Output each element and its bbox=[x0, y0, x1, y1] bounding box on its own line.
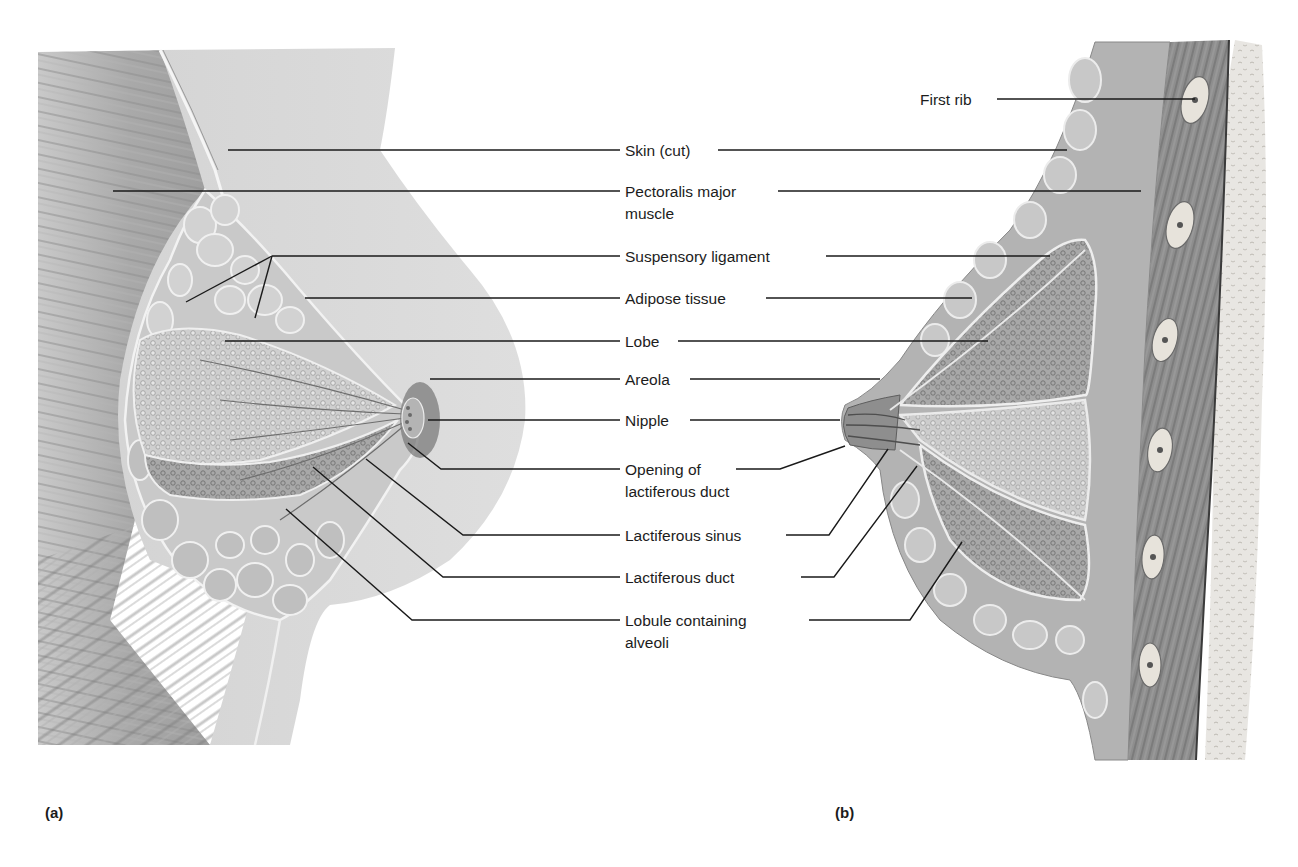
anatomy-illustration bbox=[0, 0, 1298, 867]
label-lobule-containing-alveoli: Lobule containing bbox=[625, 611, 747, 630]
label-areola: Areola bbox=[625, 370, 670, 389]
label-lobe: Lobe bbox=[625, 332, 659, 351]
panel-label-b: (b) bbox=[835, 804, 854, 821]
label-opening-lactiferous-duct-line2: lactiferous duct bbox=[625, 482, 729, 501]
label-suspensory-ligament: Suspensory ligament bbox=[625, 247, 770, 266]
label-adipose-tissue: Adipose tissue bbox=[625, 289, 726, 308]
panel-a-illustration bbox=[38, 48, 525, 745]
label-nipple: Nipple bbox=[625, 411, 669, 430]
label-pectoralis-major: Pectoralis major bbox=[625, 182, 736, 201]
label-lactiferous-duct: Lactiferous duct bbox=[625, 568, 734, 587]
label-skin-cut: Skin (cut) bbox=[625, 141, 690, 160]
breast-anatomy-figure: First rib Skin (cut) Pectoralis major mu… bbox=[0, 0, 1298, 867]
label-opening-lactiferous-duct: Opening of bbox=[625, 460, 701, 479]
label-pectoralis-major-line2: muscle bbox=[625, 204, 674, 223]
panel-b-illustration bbox=[842, 40, 1267, 760]
panel-label-a: (a) bbox=[45, 804, 63, 821]
label-lactiferous-sinus: Lactiferous sinus bbox=[625, 526, 741, 545]
label-lobule-containing-alveoli-line2: alveoli bbox=[625, 633, 669, 652]
label-first-rib: First rib bbox=[920, 90, 972, 109]
